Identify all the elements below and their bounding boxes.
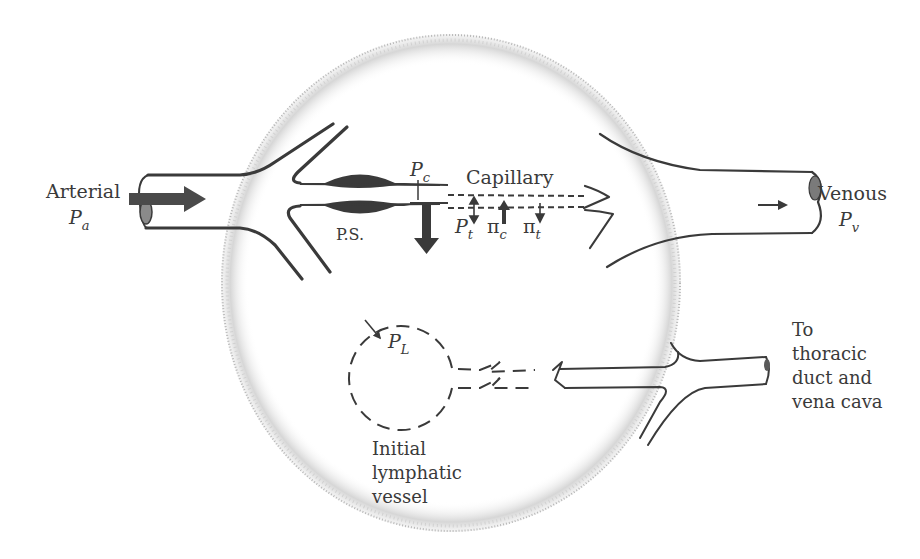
thoracic-duct-label: To thoracic duct and vena cava xyxy=(792,318,883,414)
initial-lymphatic-label: Initial lymphatic vessel xyxy=(372,437,462,509)
capillary-label: Capillary xyxy=(466,166,553,188)
arterial-pressure-label: Pa xyxy=(69,206,90,231)
capillary-pressure-label: Pc xyxy=(410,158,430,183)
capillary-oncotic-label: πc xyxy=(487,215,507,240)
lymphatic-pressure-label: PL xyxy=(388,330,409,355)
tissue-pressure-label: Pt xyxy=(455,215,473,240)
venous-pressure-label: Pv xyxy=(839,208,859,233)
tissue-oncotic-label: πt xyxy=(523,215,541,240)
arterial-label: Arterial xyxy=(46,180,120,202)
precapillary-sphincter-label: P.S. xyxy=(336,224,364,246)
venous-label: Venous xyxy=(818,182,887,204)
